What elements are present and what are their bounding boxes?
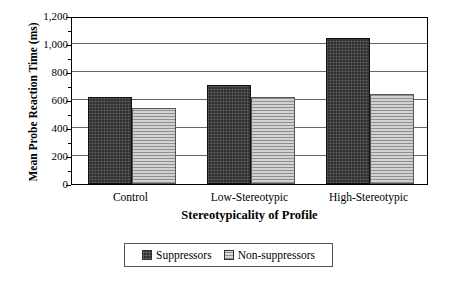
bar-high-stereotypic-suppressors — [326, 38, 370, 184]
legend-label-suppressors: Suppressors — [156, 249, 212, 261]
dark-crosshatch-swatch-icon — [142, 250, 152, 260]
chart-legend: Suppressors Non-suppressors — [124, 243, 333, 267]
plot-area — [71, 17, 428, 185]
x-category-label-low-stereotypic: Low-Stereotypic — [190, 191, 309, 203]
bar-chart-figure: Mean Probe Reaction Time (ms) 0200400600… — [0, 0, 449, 281]
y-tick-label-600: 600 — [8, 95, 68, 106]
gridline-800 — [72, 71, 427, 72]
bar-high-stereotypic-non-suppressors — [370, 94, 414, 184]
y-tick-label-200: 200 — [8, 151, 68, 162]
y-tick-label-1200: 1,200 — [8, 11, 68, 22]
y-tick-label-400: 400 — [8, 123, 68, 134]
light-lines-swatch-icon — [224, 250, 234, 260]
x-category-label-high-stereotypic: High-Stereotypic — [309, 191, 428, 203]
gridline-1000 — [72, 43, 427, 44]
bar-low-stereotypic-suppressors — [207, 85, 251, 184]
legend-item-non-suppressors: Non-suppressors — [224, 249, 315, 261]
bar-low-stereotypic-non-suppressors — [251, 97, 295, 184]
x-axis-title: Stereotypicality of Profile — [71, 208, 428, 223]
y-tick-label-1000: 1,000 — [8, 39, 68, 50]
legend-item-suppressors: Suppressors — [142, 249, 212, 261]
bar-control-non-suppressors — [132, 108, 176, 184]
y-tick-label-0: 0 — [8, 179, 68, 190]
bar-control-suppressors — [88, 97, 132, 184]
x-category-label-control: Control — [71, 191, 190, 203]
y-tick-label-800: 800 — [8, 67, 68, 78]
legend-label-non-suppressors: Non-suppressors — [238, 249, 315, 261]
